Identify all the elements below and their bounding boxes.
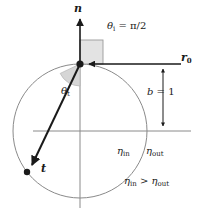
refractive-index-inequality-label: ηin > ηout — [124, 176, 169, 188]
diagram-canvas — [0, 0, 201, 211]
incident-angle-label: θi = π/2 — [107, 21, 146, 33]
incident-ray-label: r0 — [181, 52, 192, 64]
incident-ray-label-subscript: 0 — [187, 56, 192, 65]
transmitted-vector-label: t — [41, 163, 46, 174]
normal-vector-label: n — [74, 3, 82, 14]
transmitted-ray-arrow — [32, 64, 80, 165]
right-angle-marker — [80, 40, 103, 64]
impact-parameter-label: b = 1 — [147, 87, 175, 97]
refraction-diagram-figure: n r0 θi = π/2 θt t b = 1 ηin ηout ηin > … — [0, 0, 201, 211]
entry-point-dot — [76, 60, 83, 67]
eta-in-label: ηin — [117, 146, 130, 158]
exit-point-dot — [24, 169, 30, 175]
transmitted-angle-label: θt — [61, 86, 70, 98]
eta-out-label: ηout — [146, 146, 164, 158]
